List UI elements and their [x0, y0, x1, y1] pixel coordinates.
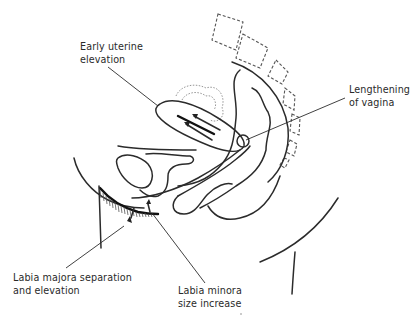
label-early-uterine-elevation: Early uterine elevation — [80, 41, 143, 66]
label-line: Labia majora separation — [13, 272, 132, 285]
leader-lines — [66, 67, 345, 283]
bowel-dotted-outline — [176, 85, 223, 121]
label-line: Early uterine — [80, 41, 143, 54]
leader-minora — [152, 213, 205, 283]
label-line: Labia minora — [178, 285, 242, 298]
label-labia-majora: Labia majora separation and elevation — [13, 272, 132, 297]
pubic-bone — [117, 155, 153, 188]
label-line: elevation — [80, 54, 143, 67]
leader-vagina — [246, 98, 345, 140]
perineal-body — [173, 183, 232, 214]
rectum-inner — [200, 88, 270, 208]
label-line: of vagina — [349, 97, 410, 110]
label-line: Lengthening — [349, 84, 410, 97]
buttock-outline — [260, 198, 338, 262]
speck — [240, 313, 242, 315]
label-line: and elevation — [13, 285, 132, 298]
uterine-elevation-arrows — [178, 114, 220, 140]
leader-uterine — [108, 67, 158, 106]
label-line: size increase — [178, 298, 242, 311]
bladder — [140, 153, 193, 196]
bladder-upper-line — [118, 146, 196, 150]
label-lengthening-of-vagina: Lengthening of vagina — [349, 84, 410, 109]
gluteal-fold — [292, 252, 295, 294]
rectum-outer — [178, 70, 240, 186]
label-labia-minora: Labia minora size increase — [178, 285, 242, 310]
leader-majora — [66, 226, 124, 268]
